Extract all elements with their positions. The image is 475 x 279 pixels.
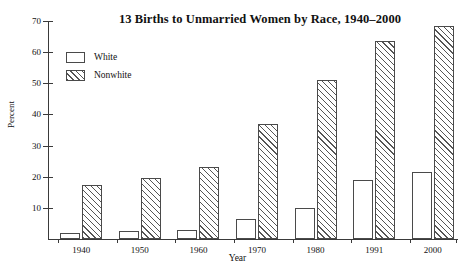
bar-nonwhite-1970 xyxy=(258,124,278,239)
bar-nonwhite-1950 xyxy=(141,178,161,239)
y-tick-mark xyxy=(43,208,48,209)
x-tick-label: 1980 xyxy=(307,245,325,255)
x-tick-label: 1940 xyxy=(72,245,90,255)
bar-white-1940 xyxy=(60,233,80,239)
y-tick-mark-inner xyxy=(49,52,53,53)
x-axis-title: Year xyxy=(0,253,475,263)
y-tick-mark xyxy=(43,52,48,53)
x-tick-mark xyxy=(58,239,59,243)
legend-label-nonwhite: Nonwhite xyxy=(94,70,131,80)
bar-white-1950 xyxy=(119,231,139,239)
legend-item-white: White xyxy=(66,48,131,66)
bar-nonwhite-1991 xyxy=(375,41,395,239)
y-tick-label: 30 xyxy=(32,141,41,151)
y-tick-label: 10 xyxy=(32,203,41,213)
y-tick-mark xyxy=(43,177,48,178)
legend-swatch-nonwhite-icon xyxy=(66,70,85,81)
y-axis-line xyxy=(48,21,49,239)
bar-nonwhite-1980 xyxy=(317,80,337,239)
y-tick-mark-inner xyxy=(49,177,53,178)
y-tick-mark-inner xyxy=(49,114,53,115)
x-tick-label: 1970 xyxy=(248,245,266,255)
bar-white-1991 xyxy=(353,180,373,239)
chart-legend: White Nonwhite xyxy=(66,48,131,84)
legend-item-nonwhite: Nonwhite xyxy=(66,66,131,84)
y-tick-mark xyxy=(43,83,48,84)
y-tick-label: 40 xyxy=(32,109,41,119)
x-tick-mark xyxy=(410,239,411,243)
bar-nonwhite-2000 xyxy=(434,26,454,239)
legend-label-white: White xyxy=(94,52,117,62)
x-tick-label: 1991 xyxy=(365,245,383,255)
y-tick-mark-inner xyxy=(49,83,53,84)
y-tick-label: 50 xyxy=(32,78,41,88)
x-tick-label: 1960 xyxy=(189,245,207,255)
x-tick-mark xyxy=(234,239,235,243)
x-tick-mark xyxy=(117,239,118,243)
chart-container: 13 Births to Unmarried Women by Race, 19… xyxy=(0,0,475,279)
x-axis-line xyxy=(48,239,458,240)
bar-nonwhite-1960 xyxy=(199,167,219,239)
x-tick-mark xyxy=(293,239,294,243)
y-tick-label: 20 xyxy=(32,172,41,182)
x-tick-mark xyxy=(351,239,352,243)
bar-white-1970 xyxy=(236,219,256,239)
x-tick-label: 1950 xyxy=(131,245,149,255)
bar-nonwhite-1940 xyxy=(82,185,102,240)
x-tick-label: 2000 xyxy=(424,245,442,255)
x-tick-mark xyxy=(456,239,457,243)
bar-white-2000 xyxy=(412,172,432,239)
bar-white-1960 xyxy=(177,230,197,239)
x-tick-mark xyxy=(175,239,176,243)
y-tick-mark-inner xyxy=(49,146,53,147)
y-tick-mark-inner xyxy=(49,208,53,209)
y-tick-mark xyxy=(43,21,48,22)
bar-white-1980 xyxy=(295,208,315,239)
y-tick-mark xyxy=(43,114,48,115)
y-tick-label: 70 xyxy=(32,16,41,26)
legend-swatch-white-icon xyxy=(66,52,85,63)
y-tick-mark xyxy=(43,146,48,147)
y-tick-mark-inner xyxy=(49,21,53,22)
y-axis-title: Percent xyxy=(6,101,16,128)
y-tick-label: 60 xyxy=(32,47,41,57)
